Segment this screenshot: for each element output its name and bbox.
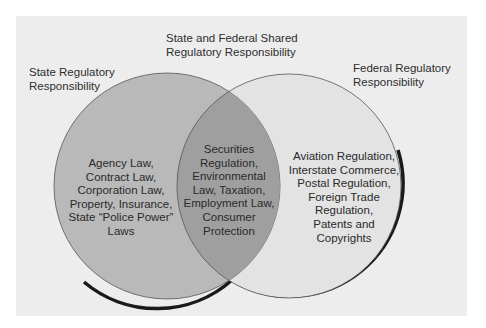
region-line: Law, Taxation, (179, 184, 279, 198)
state-label-line: Responsibility (29, 80, 115, 94)
region-line: Securities (179, 143, 279, 157)
region-line: Contract Law, (60, 171, 182, 185)
region-line: Laws (60, 225, 182, 239)
region-line: Postal Regulation, (283, 177, 405, 191)
federal-label: Federal Regulatory Responsibility (353, 62, 451, 89)
shared-label-line: Regulatory Responsibility (166, 46, 298, 60)
region-line: Employment Law, (179, 197, 279, 211)
federal-only-region-text: Aviation Regulation, Interstate Commerce… (283, 150, 405, 245)
region-line: Corporation Law, (60, 184, 182, 198)
region-line: Environmental (179, 170, 279, 184)
region-line: Patents and (283, 218, 405, 232)
state-label: State Regulatory Responsibility (29, 66, 115, 93)
state-label-line: State Regulatory (29, 66, 115, 80)
federal-label-line: Federal Regulatory (353, 62, 451, 76)
region-line: Agency Law, (60, 157, 182, 171)
shared-label: State and Federal Shared Regulatory Resp… (166, 32, 298, 59)
region-line: Protection (179, 225, 279, 239)
region-line: Regulation, (283, 204, 405, 218)
region-line: Interstate Commerce, (283, 164, 405, 178)
federal-label-line: Responsibility (353, 76, 451, 90)
state-only-region-text: Agency Law, Contract Law, Corporation La… (60, 157, 182, 239)
region-line: Consumer (179, 211, 279, 225)
shared-label-line: State and Federal Shared (166, 32, 298, 46)
region-line: Property, Insurance, (60, 198, 182, 212)
shared-region-text: Securities Regulation, Environmental Law… (179, 143, 279, 238)
region-line: Regulation, (179, 157, 279, 171)
region-line: Aviation Regulation, (283, 150, 405, 164)
region-line: State “Police Power” (60, 211, 182, 225)
region-line: Foreign Trade (283, 191, 405, 205)
region-line: Copyrights (283, 232, 405, 246)
